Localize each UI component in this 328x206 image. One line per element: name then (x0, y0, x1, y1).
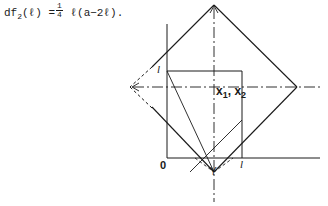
diamond-dashed-upper-left (130, 67, 152, 87)
origin-label: 0 (160, 159, 166, 171)
y-axis-tick-label: l (157, 63, 160, 75)
region-label-separator: , (228, 84, 231, 98)
diamond-edge-top-left-outer (167, 5, 214, 52)
figure-page: df2(ℓ) =14 ℓ(a−2ℓ). (0, 0, 328, 206)
region-label: x1, x2 (216, 84, 246, 100)
bottom-vertex-label: Y (210, 166, 217, 177)
diamond-dashed-lower-left (130, 87, 152, 108)
region-label-base-1: x (216, 84, 223, 98)
diamond-edge-top-right (214, 5, 297, 87)
geometric-diagram (0, 0, 328, 206)
inner-diagonal-descending (167, 71, 214, 172)
region-label-subscript-2: 2 (241, 90, 246, 100)
inner-diagonal-ascending (190, 120, 242, 172)
x-axis-tick-label: l (240, 158, 243, 170)
